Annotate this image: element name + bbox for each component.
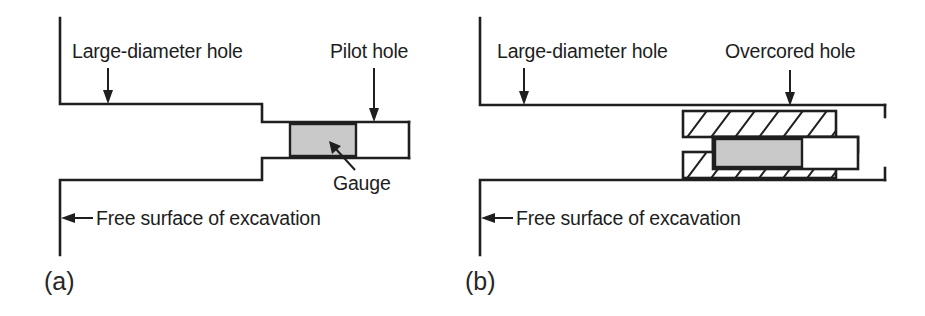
label-free-surface: Free surface of excavation: [96, 207, 321, 229]
free-surface-arrow-icon: [61, 213, 93, 223]
label-overcored-hole: Overcored hole: [725, 40, 856, 62]
panel-b: Large-diameter hole Overcored hole Free …: [463, 0, 925, 316]
panel-a-label: (a): [44, 267, 75, 295]
upper-boundary-path: [60, 18, 409, 122]
large-diameter-hole-arrow-icon: [519, 68, 529, 105]
panel-a: Large-diameter hole Pilot hole Gauge Fre…: [0, 0, 463, 316]
free-surface-arrow-icon: [481, 213, 513, 223]
figure-root: Large-diameter hole Pilot hole Gauge Fre…: [0, 0, 925, 316]
label-large-diameter-hole: Large-diameter hole: [497, 40, 668, 62]
label-free-surface: Free surface of excavation: [516, 207, 741, 229]
large-diameter-hole-arrow-icon: [103, 68, 113, 104]
panel-a-drawing: Large-diameter hole Pilot hole Gauge Fre…: [0, 0, 463, 316]
label-pilot-hole: Pilot hole: [330, 40, 408, 62]
overcored-hole-arrow-icon: [785, 70, 795, 106]
panel-b-label: (b): [465, 267, 496, 295]
label-gauge: Gauge: [333, 172, 391, 194]
gauge-body: [715, 139, 802, 167]
gauge-body: [290, 124, 356, 156]
overcore-band-top: [661, 108, 853, 140]
label-large-diameter-hole: Large-diameter hole: [72, 40, 243, 62]
pilot-hole-arrow-icon: [369, 68, 379, 122]
panel-b-drawing: Large-diameter hole Overcored hole Free …: [463, 0, 925, 316]
